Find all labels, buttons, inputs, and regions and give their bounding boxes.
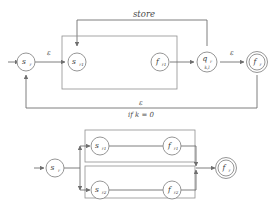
edge-label-if-k-zero: if k = 0 [128,111,155,119]
node-f-r-accepting[interactable]: f r [247,52,268,73]
node-bottom-s-r1[interactable]: s r1 [91,137,109,155]
node-bottom-f-r2-subscript: r2 [174,190,179,195]
node-bottom-s-r1-label: s [95,141,99,150]
edge-label-eps-left: ε [47,49,51,57]
edge-qr-to-fr: ε [220,49,244,62]
edge-sr-to-sr1: ε [34,49,65,62]
node-q-r-kl-label: q [203,54,208,63]
node-q-r-kl[interactable]: q r k,l [197,52,217,72]
node-bottom-f-r2[interactable]: f r2 [163,181,181,199]
node-f-r1-subscript: r1 [162,62,167,67]
node-bottom-f-r1[interactable]: f r1 [163,137,181,155]
node-bottom-s-r[interactable]: s r [46,159,64,177]
node-bottom-f-r1-subscript: r1 [174,146,179,151]
bottom-machine: s r s r1 f r1 s r2 f r2 [34,130,237,199]
top-machine: store ε ε ε if k = 0 s r [8,9,268,119]
node-s-r1-label: s [72,57,76,66]
node-bottom-s-r-label: s [51,163,55,172]
edge-merge-bar [181,146,215,190]
node-q-r-kl-subscript2: k,l [204,65,210,70]
diagram-canvas: store ε ε ε if k = 0 s r [0,0,275,208]
edge-label-eps-right: ε [230,49,234,57]
node-bottom-s-r1-subscript: r1 [102,146,107,151]
edge-label-store: store [133,9,155,19]
node-s-r-label: s [22,57,26,66]
node-bottom-s-r2-subscript: r2 [102,190,107,195]
node-bottom-s-r2[interactable]: s r2 [91,181,109,199]
node-f-r1[interactable]: f r1 [151,53,169,71]
edge-feedback-if-k-zero: ε if k = 0 [26,75,257,119]
node-bottom-f-r-accepting[interactable]: f r [216,158,237,179]
node-s-r1[interactable]: s r1 [68,53,86,71]
edge-store: store [77,9,207,46]
node-bottom-s-r2-label: s [95,185,99,194]
node-s-r[interactable]: s r [17,53,35,71]
edge-label-eps-feedback: ε [139,99,143,107]
node-s-r1-subscript: r1 [79,62,84,67]
